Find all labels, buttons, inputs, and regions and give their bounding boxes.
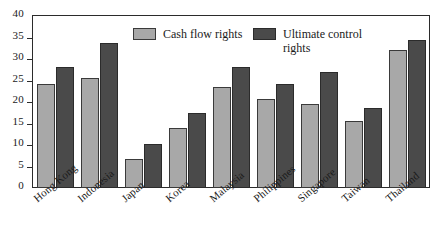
bar-group xyxy=(81,16,118,188)
bar xyxy=(389,50,407,188)
bar xyxy=(213,87,231,188)
y-axis-tick-label: 30 xyxy=(13,51,24,62)
bar xyxy=(37,84,55,188)
bar-group xyxy=(213,16,250,188)
bar xyxy=(301,104,319,188)
bar-chart: 4035302520151050 Cash flow rights Ultima… xyxy=(0,0,439,248)
bar-group xyxy=(169,16,206,188)
y-axis-tick-label: 40 xyxy=(13,8,24,19)
bar-group xyxy=(125,16,162,188)
bar xyxy=(188,113,206,188)
y-axis-tick-label: 15 xyxy=(13,116,24,127)
bar xyxy=(81,78,99,188)
bar-group xyxy=(301,16,338,188)
bar-group xyxy=(389,16,426,188)
y-axis-tick-label: 10 xyxy=(13,137,24,148)
y-axis-tick-label: 5 xyxy=(18,159,24,170)
bar xyxy=(257,99,275,188)
bar xyxy=(144,144,162,188)
y-axis-tick-label: 25 xyxy=(13,73,24,84)
bar xyxy=(408,40,426,188)
bars-layer xyxy=(33,16,429,188)
bar-group xyxy=(345,16,382,188)
x-axis-labels: Hong KongIndonesiaJapanKoreaMalaysiaPhil… xyxy=(0,189,439,248)
y-axis-tick-label: 20 xyxy=(13,94,24,105)
y-axis-tick-label: 35 xyxy=(13,30,24,41)
bar xyxy=(232,67,250,188)
